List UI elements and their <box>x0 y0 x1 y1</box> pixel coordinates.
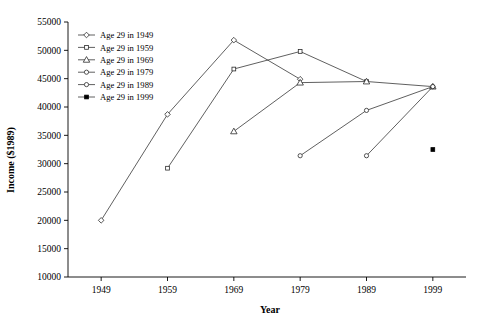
legend-item-4-circle-open-marker <box>84 70 88 74</box>
series-4-point-circle-open-marker <box>364 108 368 112</box>
y-tick-label: 50000 <box>37 46 61 56</box>
series-6-point-square-filled-marker <box>431 148 435 152</box>
x-tick-label: 1969 <box>224 285 243 295</box>
chart-container: 1000015000200002500030000350004000045000… <box>0 0 481 333</box>
y-tick-label: 20000 <box>37 216 61 226</box>
x-axis-title: Year <box>260 304 281 315</box>
y-tick-label: 30000 <box>37 159 61 169</box>
legend-item-6-label: Age 29 in 1999 <box>100 92 153 102</box>
y-tick-label: 25000 <box>37 187 61 197</box>
series-2-point-square-open-marker <box>166 166 170 170</box>
legend-item-5-label: Age 29 in 1989 <box>100 80 153 90</box>
series-5-point-circle-open-marker <box>431 84 435 88</box>
y-tick-label: 35000 <box>37 131 61 141</box>
series-5-point-circle-open-marker <box>364 154 368 158</box>
legend-item-2-label: Age 29 in 1959 <box>100 43 153 53</box>
x-tick-label: 1949 <box>92 285 111 295</box>
legend-item-5-circle-open-marker <box>84 82 88 86</box>
y-tick-label: 45000 <box>37 74 61 84</box>
x-tick-label: 1959 <box>158 285 177 295</box>
y-axis-title: Income ($1989) <box>5 127 17 193</box>
series-2-point-square-open-marker <box>232 67 236 71</box>
legend-item-2-square-open-marker <box>85 46 89 50</box>
y-tick-label: 55000 <box>37 17 61 27</box>
plot-background <box>0 0 481 333</box>
y-tick-label: 40000 <box>37 102 61 112</box>
y-tick-label: 15000 <box>37 244 61 254</box>
series-4-point-circle-open-marker <box>298 154 302 158</box>
x-tick-label: 1979 <box>291 285 310 295</box>
series-2-point-square-open-marker <box>298 50 302 54</box>
series-6 <box>431 148 435 152</box>
y-tick-label: 10000 <box>37 272 61 282</box>
x-tick-label: 1989 <box>357 285 376 295</box>
legend-item-3-label: Age 29 in 1969 <box>100 55 153 65</box>
x-tick-label: 1999 <box>423 285 442 295</box>
legend-item-4-label: Age 29 in 1979 <box>100 67 153 77</box>
legend-item-6-square-filled-marker <box>85 95 89 99</box>
income-by-cohort-line-chart: 1000015000200002500030000350004000045000… <box>0 0 481 333</box>
legend-item-1-label: Age 29 in 1949 <box>100 30 153 40</box>
